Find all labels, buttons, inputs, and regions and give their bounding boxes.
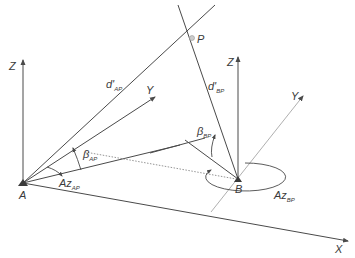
dotted-line-to-b [85, 152, 236, 179]
d-bp-label: d'BP [208, 80, 224, 94]
point-p-marker [190, 36, 195, 41]
d-ap-label: d'AP [106, 78, 122, 92]
x-axis-label: X [334, 243, 343, 255]
projection-ray-b [150, 138, 205, 153]
y-axis-b-label: Y [291, 90, 299, 102]
azimuth-arc-b [206, 163, 286, 191]
beta-arc-a [73, 148, 81, 170]
x-axis [23, 183, 348, 241]
beta-arc-b [211, 135, 215, 157]
azimuth-arc-a [47, 167, 62, 176]
diagram-canvas: Z Y Z Y X A B P d'AP d'BP βAP βBP AzAP A… [0, 0, 355, 258]
projection-line-a [23, 145, 180, 183]
point-p-label: P [197, 33, 205, 45]
y-axis-b [211, 96, 303, 212]
beta-bp-label: βBP [196, 125, 211, 139]
point-a-label: A [18, 189, 26, 201]
point-b-label: B [235, 183, 242, 195]
z-axis-b-label: Z [226, 56, 235, 68]
az-ap-label: AzAP [58, 177, 80, 191]
az-bp-label: AzBP [273, 189, 295, 203]
line-b-to-p [178, 5, 238, 179]
y-axis-a [23, 97, 155, 183]
beta-ap-label: βAP [82, 148, 97, 162]
z-axis-a-label: Z [8, 60, 17, 72]
y-axis-a-label: Y [146, 84, 154, 96]
line-a-to-p [23, 5, 215, 183]
